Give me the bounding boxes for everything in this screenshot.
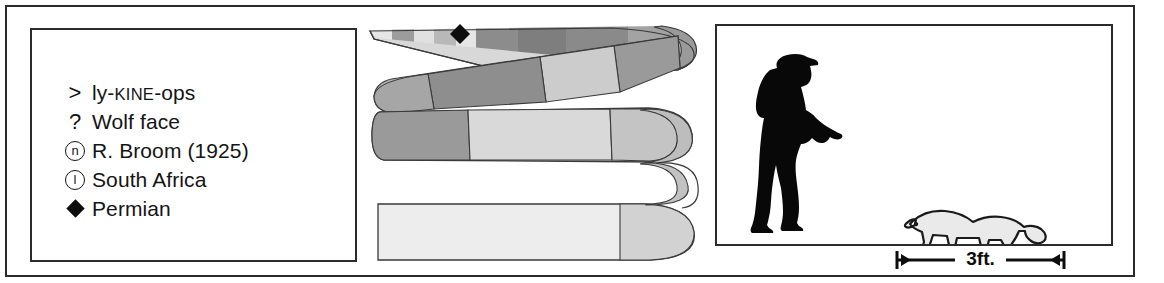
pronunciation-stress: KINE [114, 85, 154, 103]
legend-item-name-meaning: ? Wolf face [58, 107, 343, 136]
size-comparison-panel [715, 24, 1113, 246]
lycaenops-silhouette [905, 211, 1046, 244]
circled-l-icon: l [58, 170, 92, 190]
ribbon-fold-connector [640, 163, 688, 205]
fact-legend-panel: > ly-KINE-ops ? Wolf face n R. Broom (19… [30, 28, 357, 262]
pronunciation-suffix: -ops [154, 81, 195, 104]
circled-n-glyph: n [65, 141, 85, 161]
legend-item-locality: l South Africa [58, 165, 343, 194]
legend-item-pronunciation: > ly-KINE-ops [58, 78, 343, 107]
time-ribbon-svg [362, 8, 710, 276]
diamond-glyph [66, 199, 84, 217]
circled-n-icon: n [58, 141, 92, 161]
human-silhouette [751, 54, 843, 233]
greater-than-icon: > [58, 82, 92, 104]
legend-item-label: South Africa [92, 168, 206, 192]
legend-item-label: ly-KINE-ops [92, 81, 195, 105]
legend-list: > ly-KINE-ops ? Wolf face n R. Broom (19… [58, 78, 343, 223]
legend-item-label: Permian [92, 197, 171, 221]
geologic-time-ribbon-panel [362, 8, 710, 276]
question-mark-icon: ? [58, 111, 92, 133]
pronunciation-prefix: ly- [92, 81, 114, 104]
legend-item-period: Permian [58, 194, 343, 223]
scale-bar-label: 3ft. [893, 248, 1068, 270]
diamond-icon [58, 202, 92, 215]
legend-item-label: R. Broom (1925) [92, 139, 249, 163]
legend-item-named-by: n R. Broom (1925) [58, 136, 343, 165]
size-comparison-svg [717, 26, 1111, 244]
legend-item-label: Wolf face [92, 110, 180, 134]
ribbon-band-bottom [378, 163, 698, 260]
ribbon-band-third [372, 108, 692, 163]
scale-bar: 3ft. [893, 248, 1068, 274]
figure-root: > ly-KINE-ops ? Wolf face n R. Broom (19… [0, 0, 1164, 283]
circled-l-glyph: l [65, 170, 85, 190]
